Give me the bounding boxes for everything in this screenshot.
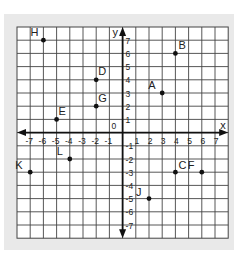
y-axis-label: y: [113, 26, 119, 38]
origin-label: 0: [112, 121, 117, 131]
point-label-b: B: [178, 39, 185, 51]
x-tick-label: 6: [200, 136, 205, 146]
point-label-c: C: [178, 159, 186, 171]
x-tick-label: -4: [65, 136, 73, 146]
point-j: [147, 196, 152, 201]
y-tick-label: -4: [126, 181, 134, 191]
point-e: [54, 117, 59, 122]
x-tick-label: -2: [91, 136, 99, 146]
y-tick-label: 3: [126, 89, 131, 99]
point-k: [28, 170, 33, 175]
point-g: [94, 104, 99, 109]
y-tick-label: -6: [126, 207, 134, 217]
point-b: [173, 51, 178, 56]
x-tick-label: -6: [39, 136, 47, 146]
point-label-a: A: [148, 79, 156, 91]
x-tick-label: 7: [214, 136, 219, 146]
point-label-f: F: [188, 159, 195, 171]
x-tick-label: 4: [174, 136, 179, 146]
x-tick-label: -1: [105, 136, 113, 146]
point-label-l: L: [57, 145, 63, 157]
y-tick-label: 1: [126, 115, 131, 125]
point-label-h: H: [30, 26, 38, 38]
point-label-d: D: [98, 65, 106, 77]
point-label-k: K: [15, 159, 23, 171]
y-tick-label: -7: [126, 221, 134, 231]
x-tick-label: 3: [161, 136, 166, 146]
y-tick-label: 2: [126, 102, 131, 112]
point-f: [199, 170, 204, 175]
x-tick-label: -3: [78, 136, 86, 146]
x-axis-label: x: [220, 119, 226, 131]
y-tick-label: 5: [126, 62, 131, 72]
y-tick-label: 7: [126, 36, 131, 46]
point-label-j: J: [136, 186, 142, 198]
x-tick-label: -7: [25, 136, 33, 146]
y-tick-label: -5: [126, 194, 134, 204]
x-tick-label: 2: [148, 136, 153, 146]
y-tick-label: -1: [126, 141, 134, 151]
x-tick-label: 5: [187, 136, 192, 146]
point-l: [67, 157, 72, 162]
y-tick-label: -3: [126, 168, 134, 178]
y-tick-label: 4: [126, 75, 131, 85]
point-c: [173, 170, 178, 175]
point-label-g: G: [98, 92, 107, 104]
point-a: [160, 91, 165, 96]
point-h: [41, 38, 46, 43]
coordinate-plane: xy-7-6-5-4-3-2-112345677654321-1-2-3-4-5…: [0, 0, 243, 265]
point-d: [94, 77, 99, 82]
point-label-e: E: [59, 105, 66, 117]
x-tick-label: 1: [134, 136, 139, 146]
y-tick-label: 6: [126, 49, 131, 59]
y-tick-label: -2: [126, 155, 134, 165]
